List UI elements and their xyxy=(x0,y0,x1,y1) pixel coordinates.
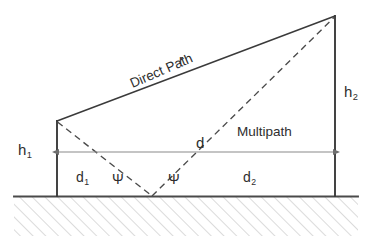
diagram-canvas: h1 h2 d d1 d2 r Direct Path Multipath Ψ … xyxy=(0,0,372,236)
ground-hatch-region xyxy=(14,197,358,236)
label-grazing-angle-left: Ψ xyxy=(112,172,124,186)
multipath-incident-ray xyxy=(58,122,153,196)
label-h2: h2 xyxy=(344,84,358,99)
label-d1: d1 xyxy=(76,170,89,184)
label-multipath: Multipath xyxy=(237,125,292,139)
label-grazing-angle-right: Ψ xyxy=(168,172,180,186)
direct-path-line xyxy=(57,16,335,121)
label-h1: h1 xyxy=(18,142,32,157)
label-d: d xyxy=(196,135,204,150)
propagation-diagram xyxy=(0,0,372,236)
label-d2: d2 xyxy=(243,170,256,184)
